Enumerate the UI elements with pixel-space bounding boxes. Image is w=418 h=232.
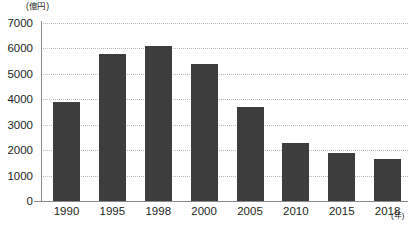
plot-area <box>41 23 408 201</box>
y-axis-line <box>41 21 42 202</box>
y-axis-tick-label: 6000 <box>7 42 33 54</box>
y-axis-tick-label: 2000 <box>7 144 33 156</box>
x-axis-tick-label: 1995 <box>100 205 126 218</box>
y-axis-tick-label: 4000 <box>7 93 33 105</box>
x-axis-tick-label: 2005 <box>237 205 263 218</box>
x-axis-tick-label: 2000 <box>191 205 217 218</box>
x-axis-tick-label: 1998 <box>145 205 171 218</box>
y-axis-tick-labels: 01000200030004000500060007000 <box>0 23 37 201</box>
gridline <box>41 150 408 151</box>
bar <box>237 107 264 201</box>
bar <box>328 153 355 201</box>
gridline <box>41 23 408 24</box>
x-axis-tick-label: 2010 <box>283 205 309 218</box>
bar <box>191 64 218 201</box>
x-axis-line <box>34 201 408 202</box>
gridline <box>41 74 408 75</box>
gridline <box>41 99 408 100</box>
bar-chart: (億円) 01000200030004000500060007000 19901… <box>0 0 418 232</box>
bar <box>99 54 126 201</box>
y-axis-tick-label: 7000 <box>7 17 33 29</box>
bar <box>145 46 172 201</box>
x-axis-tick-label: 1990 <box>54 205 80 218</box>
bar <box>53 102 80 201</box>
gridline <box>41 48 408 49</box>
x-axis-unit-label: (年) <box>391 211 404 220</box>
y-axis-tick-label: 5000 <box>7 68 33 80</box>
gridline <box>41 125 408 126</box>
bar <box>282 143 309 201</box>
y-axis-tick-label: 0 <box>27 195 33 207</box>
x-axis-tick-labels: 19901995199820002005201020152018 <box>41 205 408 225</box>
y-axis-unit-label: (億円) <box>26 1 49 12</box>
x-axis-tick-label: 2015 <box>329 205 355 218</box>
y-axis-tick-label: 1000 <box>7 170 33 182</box>
y-axis-tick-label: 3000 <box>7 119 33 131</box>
bar <box>374 159 401 201</box>
